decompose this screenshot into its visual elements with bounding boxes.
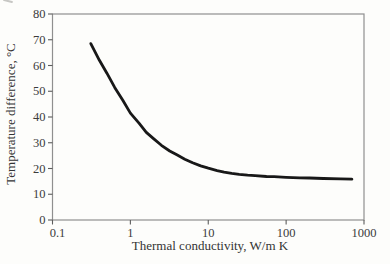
y-tick-label: 30 <box>33 136 46 150</box>
plot-area: 010203040506070800.11101001000 Temperatu… <box>0 0 390 264</box>
chart-figure: 010203040506070800.11101001000 Temperatu… <box>0 0 390 264</box>
y-tick-label: 60 <box>33 59 46 73</box>
y-tick-label: 20 <box>33 162 46 176</box>
plot-frame <box>53 14 365 220</box>
axes-border <box>53 14 365 220</box>
x-axis-title: Thermal conductivity, W/m K <box>132 238 289 253</box>
x-tick-label: 0.1 <box>50 226 66 240</box>
data-curve-layer <box>91 44 352 180</box>
y-tick-label: 80 <box>33 7 46 21</box>
series-curve <box>91 44 352 180</box>
y-tick-label: 70 <box>33 33 46 47</box>
y-tick-label: 50 <box>33 84 46 98</box>
y-tick-label: 40 <box>33 110 46 124</box>
y-tick-label: 10 <box>33 187 46 201</box>
x-tick-label: 1000 <box>352 226 377 240</box>
axis-tick-labels: 010203040506070800.11101001000 <box>33 7 377 239</box>
y-tick-label: 0 <box>39 213 45 227</box>
axis-ticks <box>48 14 364 225</box>
y-axis-title: Temperature difference, °C <box>3 43 18 185</box>
